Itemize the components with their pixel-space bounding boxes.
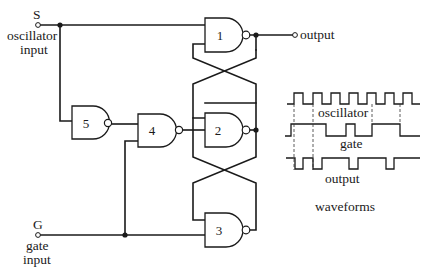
gate-1-label: 1	[217, 28, 224, 43]
nand-gate-5: 5	[72, 106, 112, 139]
nand-gate-3: 3	[205, 213, 250, 247]
gate-4-label: 4	[149, 123, 156, 138]
nand-gate-2: 2	[205, 113, 250, 147]
gate-3-label: 3	[216, 223, 223, 238]
s-input-terminal	[36, 23, 41, 28]
s-input-letter: S	[33, 7, 41, 22]
circuit-diagram: 1 2 3 4 5 S oscillator input G gate inpu…	[0, 0, 430, 270]
g-input-terminal	[36, 233, 41, 238]
output-label: output	[300, 27, 335, 42]
oscillator-waveform-label: oscillator	[318, 105, 369, 120]
output-waveform	[286, 158, 420, 169]
gate-2-label: 2	[215, 123, 222, 138]
s-input-label-line2: input	[20, 42, 48, 57]
output-waveform-label: output	[325, 171, 360, 186]
nand-gate-4: 4	[138, 114, 183, 147]
gate-5-label: 5	[83, 116, 90, 131]
g-input-letter: G	[33, 217, 43, 232]
nand-gate-1: 1	[205, 18, 250, 52]
gate-waveform	[285, 124, 420, 136]
output-terminal	[293, 33, 298, 38]
gate-waveform-label: gate	[340, 136, 363, 151]
g-input-label-line1: gate	[26, 238, 49, 253]
waveforms-panel: oscillator gate output waveforms	[285, 93, 420, 214]
s-input-label-line1: oscillator	[7, 28, 58, 43]
g-input-label-line2: input	[23, 252, 51, 267]
oscillator-waveform	[287, 93, 420, 104]
waveforms-title: waveforms	[315, 199, 375, 214]
